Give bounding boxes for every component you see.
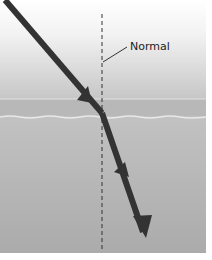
normal-label: Normal — [130, 40, 170, 53]
upper-medium — [0, 0, 206, 99]
lower-medium — [0, 116, 206, 253]
refraction-diagram — [0, 0, 212, 260]
